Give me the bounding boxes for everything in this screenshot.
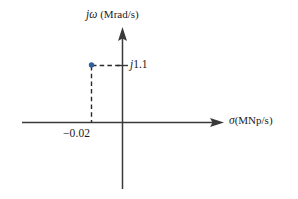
horizontal-axis-unit: (MNp/s) <box>235 114 273 126</box>
real-value-label: −0.02 <box>63 128 90 140</box>
vertical-axis-symbol: jω <box>86 8 97 20</box>
complex-plane-plot <box>0 0 298 199</box>
imaginary-value-number: 1.1 <box>133 58 147 70</box>
vertical-axis-unit: (Mrad/s) <box>100 8 139 20</box>
vertical-axis <box>118 27 127 189</box>
imaginary-value-label: j1.1 <box>130 59 148 71</box>
figure-canvas: jω (Mrad/s) σ(MNp/s) j1.1 −0.02 <box>0 0 298 199</box>
vertical-axis-label: jω (Mrad/s) <box>86 9 139 21</box>
pole-point-marker <box>89 62 94 67</box>
horizontal-axis-label: σ(MNp/s) <box>229 115 273 127</box>
